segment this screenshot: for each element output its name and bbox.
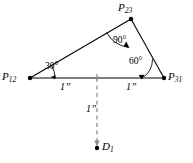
vertex-label-p23: P23 xyxy=(118,2,132,13)
angle-label-30: 30° xyxy=(45,62,58,72)
angle-label-60: 60° xyxy=(129,57,142,67)
side-p23-p31 xyxy=(131,19,164,78)
vertex-label-p12: P12 xyxy=(2,71,16,82)
dimension-label-left: 1” xyxy=(60,82,71,92)
diagram-canvas xyxy=(0,0,193,163)
vertex-dot-d1 xyxy=(95,146,99,150)
vertex-label-p31-sub: 31 xyxy=(175,75,182,84)
vertex-label-p23-base: P xyxy=(118,1,125,13)
vertex-dot-p23 xyxy=(129,17,133,21)
vertex-label-p12-sub: 12 xyxy=(9,75,16,84)
vertex-label-p23-sub: 23 xyxy=(125,6,132,15)
vertex-label-p12-base: P xyxy=(2,70,9,82)
vertex-label-d1-base: D xyxy=(102,140,110,152)
angle-label-90: 90° xyxy=(113,36,126,46)
vertex-label-p31-base: P xyxy=(168,70,175,82)
dimension-label-right: 1” xyxy=(126,82,137,92)
vertex-dot-p12 xyxy=(28,76,32,80)
dashed-line-arrowhead xyxy=(94,141,99,147)
vertex-label-d1: D1 xyxy=(102,141,114,152)
geometry-diagram: P12 P23 P31 D1 30° 90° 60° 1” 1” 1” xyxy=(0,0,193,163)
dimension-label-drop: 1” xyxy=(86,104,97,114)
vertex-label-p31: P31 xyxy=(168,71,182,82)
vertex-label-d1-sub: 1 xyxy=(110,145,114,154)
vertex-dot-p31 xyxy=(162,76,166,80)
